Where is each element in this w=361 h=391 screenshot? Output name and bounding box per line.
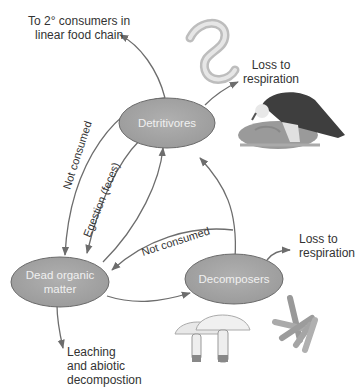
detritus-food-web-diagram: Detritivores Dead organic matter Decompo… bbox=[0, 0, 361, 391]
node-detritivores: Detritivores bbox=[119, 98, 215, 148]
label-leaching-line2: and abiotic bbox=[67, 359, 142, 373]
label-to-consumers-line2: linear food chain bbox=[28, 28, 130, 42]
label-leaching-line3: decompostion bbox=[67, 373, 142, 387]
edge-label-not-consumed-2: Not consumed bbox=[140, 225, 211, 258]
label-loss-respiration-1: Loss to respiration bbox=[243, 58, 299, 86]
diagram-canvas: Detritivores Dead organic matter Decompo… bbox=[0, 0, 361, 391]
label-to-consumers-line1: To 2° consumers in bbox=[28, 14, 130, 28]
label-loss-respiration-1-line2: respiration bbox=[243, 72, 299, 86]
label-loss-respiration-2-line1: Loss to bbox=[299, 232, 355, 246]
edge-to-consumers bbox=[120, 35, 165, 98]
edge-decomposers-respiration bbox=[267, 250, 290, 260]
vulture-illustration bbox=[238, 92, 345, 149]
label-loss-respiration-2-line2: respiration bbox=[299, 246, 355, 260]
edge-decomposers-to-detritivores bbox=[200, 158, 235, 258]
node-dead-organic-matter: Dead organic matter bbox=[11, 257, 109, 307]
worm-illustration bbox=[190, 23, 235, 79]
node-decomposers: Decomposers bbox=[185, 254, 283, 304]
node-decomposers-label: Decomposers bbox=[199, 273, 270, 285]
node-dom-label-line2: matter bbox=[44, 283, 77, 295]
label-leaching: Leaching and abiotic decompostion bbox=[67, 345, 142, 387]
mushrooms-illustration bbox=[175, 315, 250, 362]
edge-leaching bbox=[57, 305, 63, 348]
label-leaching-line1: Leaching bbox=[67, 345, 142, 359]
edge-label-not-consumed-1: Not consumed bbox=[60, 119, 93, 190]
edge-detritivores-respiration bbox=[205, 82, 238, 105]
label-loss-respiration-2: Loss to respiration bbox=[299, 232, 355, 260]
label-loss-respiration-1-line1: Loss to bbox=[243, 58, 299, 72]
node-detritivores-label: Detritivores bbox=[138, 117, 196, 129]
bacteria-illustration bbox=[275, 298, 315, 350]
node-dom-label-line1: Dead organic bbox=[26, 269, 95, 281]
label-to-consumers: To 2° consumers in linear food chain bbox=[28, 14, 130, 42]
edge-label-egestion: Egestion (feces) bbox=[81, 161, 122, 239]
edge-dom-to-decomposers bbox=[107, 293, 190, 301]
